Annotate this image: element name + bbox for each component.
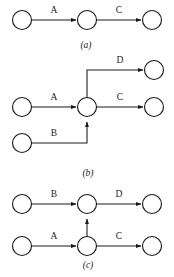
b-edge-label-C: C — [117, 92, 123, 102]
b-edge-label-D: D — [117, 55, 124, 65]
b-node-source-b[interactable] — [13, 134, 32, 153]
a-node-middle[interactable] — [78, 11, 97, 30]
c-node-junction-top[interactable] — [78, 195, 97, 214]
a-node-right[interactable] — [143, 11, 162, 30]
b-edge-D-arrow — [87, 70, 143, 98]
b-edge-label-B: B — [51, 128, 57, 138]
c-node-target-c[interactable] — [143, 237, 162, 256]
a-edge-label-C: C — [116, 5, 122, 15]
a-edge-label-A: A — [51, 5, 58, 15]
c-node-source-b[interactable] — [13, 195, 32, 214]
diagram-canvas: A C (a) A B C D — [0, 0, 174, 277]
c-node-junction-bot[interactable] — [78, 237, 97, 256]
c-node-target-d[interactable] — [143, 195, 162, 214]
b-edge-B-arrow — [32, 122, 88, 143]
c-edge-label-A: A — [51, 231, 58, 241]
b-edge-label-A: A — [51, 92, 58, 102]
b-node-target-d[interactable] — [145, 61, 164, 80]
panel-c: B D A C (c) — [13, 189, 162, 271]
panel-c-caption: (c) — [83, 260, 94, 271]
figure-root: A C (a) A B C D — [0, 0, 174, 277]
b-node-source-a[interactable] — [13, 98, 32, 117]
b-node-target-c[interactable] — [145, 98, 164, 117]
c-edge-label-B: B — [51, 189, 57, 199]
c-node-source-a[interactable] — [13, 237, 32, 256]
panel-a: A C (a) — [13, 5, 162, 51]
a-node-left[interactable] — [13, 11, 32, 30]
panel-b-caption: (b) — [82, 168, 93, 179]
c-edge-label-C: C — [116, 231, 122, 241]
b-node-junction[interactable] — [78, 98, 97, 117]
c-edge-label-D: D — [116, 189, 123, 199]
panel-b: A B C D (b) — [13, 55, 164, 179]
panel-a-caption: (a) — [80, 40, 91, 51]
